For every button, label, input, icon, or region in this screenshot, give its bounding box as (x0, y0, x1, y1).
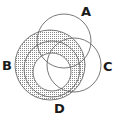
label-c: C (103, 60, 113, 73)
label-d: D (54, 102, 65, 115)
label-b: B (2, 59, 12, 72)
label-a: A (81, 5, 91, 18)
